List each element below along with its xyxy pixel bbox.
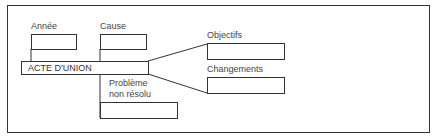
annee-input-box[interactable] bbox=[31, 34, 77, 50]
changements-input-box[interactable] bbox=[207, 77, 285, 94]
cause-input-box[interactable] bbox=[100, 34, 147, 50]
probleme-label-line1: Problème bbox=[109, 78, 148, 89]
probleme-label-line2: non résolu bbox=[109, 89, 151, 100]
objectifs-input-box[interactable] bbox=[207, 43, 285, 60]
annee-label: Année bbox=[31, 21, 57, 32]
acte-union-box: ACTE D'UNION bbox=[21, 61, 149, 75]
probleme-input-box[interactable] bbox=[100, 102, 178, 119]
changements-label: Changements bbox=[207, 64, 263, 75]
cause-label: Cause bbox=[100, 21, 126, 32]
objectifs-label: Objectifs bbox=[207, 30, 242, 41]
